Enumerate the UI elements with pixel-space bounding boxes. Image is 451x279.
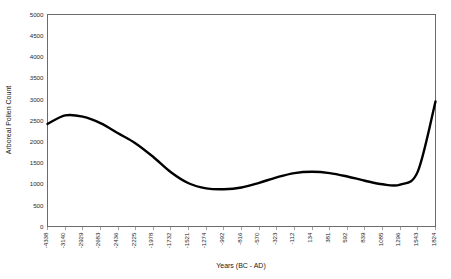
y-axis-tick-label: 0 [40,223,44,230]
x-axis-tick-label: -3140 [59,232,66,248]
y-axis-tick-label: 4000 [30,53,44,60]
x-axis-tick-label: 1824 [430,232,437,246]
x-axis-tick-label: -816 [236,232,243,245]
x-axis-tick-labels: -4338-3140-2929-2683-2436-2225-1978-1732… [42,232,437,248]
x-axis-tick-label: -4338 [42,232,49,248]
x-axis-tick-label: 839 [359,232,366,243]
x-axis-tick-label: -323 [271,232,278,245]
y-axis-title: Arboreal Pollen Count [5,86,12,155]
x-axis-tick-label: -992 [218,232,225,245]
plot-area-frame [48,15,436,227]
y-axis-tick-label: 4500 [30,32,44,39]
y-axis-tick-label: 2500 [30,117,44,124]
x-axis-tick-label: -1732 [165,232,172,248]
y-axis-tick-label: 1500 [30,159,44,166]
x-axis-title: Years (BC - AD) [216,262,266,270]
y-axis-tick-label: 5000 [30,11,44,18]
x-axis-tick-label: 1085 [377,232,384,246]
y-axis-tick-labels: 0500100015002000250030003500400045005000 [30,11,44,230]
x-axis-tick-label: -112 [288,232,295,244]
y-axis-tick-label: 500 [33,202,44,209]
pollen-count-line-chart: 0500100015002000250030003500400045005000… [0,0,451,279]
x-axis-tick-label: 592 [341,232,348,243]
x-axis-tick-label: -1521 [183,232,190,248]
x-axis-tick-label: -2436 [112,232,119,248]
y-axis-tick-label: 2000 [30,138,44,145]
chart-container: 0500100015002000250030003500400045005000… [0,0,451,279]
x-axis-tick-label: -2225 [130,232,137,248]
x-axis-tick-label: 1543 [412,232,419,246]
x-axis-tick-label: -2683 [94,232,101,248]
y-axis-tick-label: 3500 [30,74,44,81]
data-series-line [48,101,436,189]
y-axis-tick-label: 3000 [30,96,44,103]
x-axis-tick-label: 1296 [394,232,401,246]
x-axis-tick-label: 381 [324,232,331,243]
x-axis-tick-label: -570 [253,232,260,245]
y-axis-tick-label: 1000 [30,180,44,187]
x-axis-tick-label: -1274 [200,232,207,248]
x-axis-tick-label: -1978 [147,232,154,248]
x-axis-tick-label: 134 [306,232,313,243]
x-axis-tick-label: -2929 [77,232,84,248]
